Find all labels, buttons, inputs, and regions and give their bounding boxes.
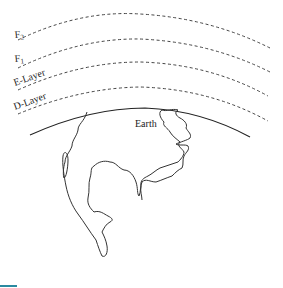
f1-label: F1 <box>14 52 25 66</box>
earth-label: Earth <box>135 118 157 129</box>
ionosphere-diagram: F2 F1 E-Layer D-Layer Earth <box>0 0 283 288</box>
d-layer-arc <box>18 87 268 121</box>
f1-layer-arc <box>18 39 270 72</box>
f2-layer-arc <box>18 14 270 48</box>
d-layer-label: D-Layer <box>12 90 48 112</box>
continent-outline <box>63 109 191 256</box>
f2-label: F2 <box>14 28 25 42</box>
accent-bar <box>0 285 17 287</box>
e-layer-arc <box>18 62 268 96</box>
